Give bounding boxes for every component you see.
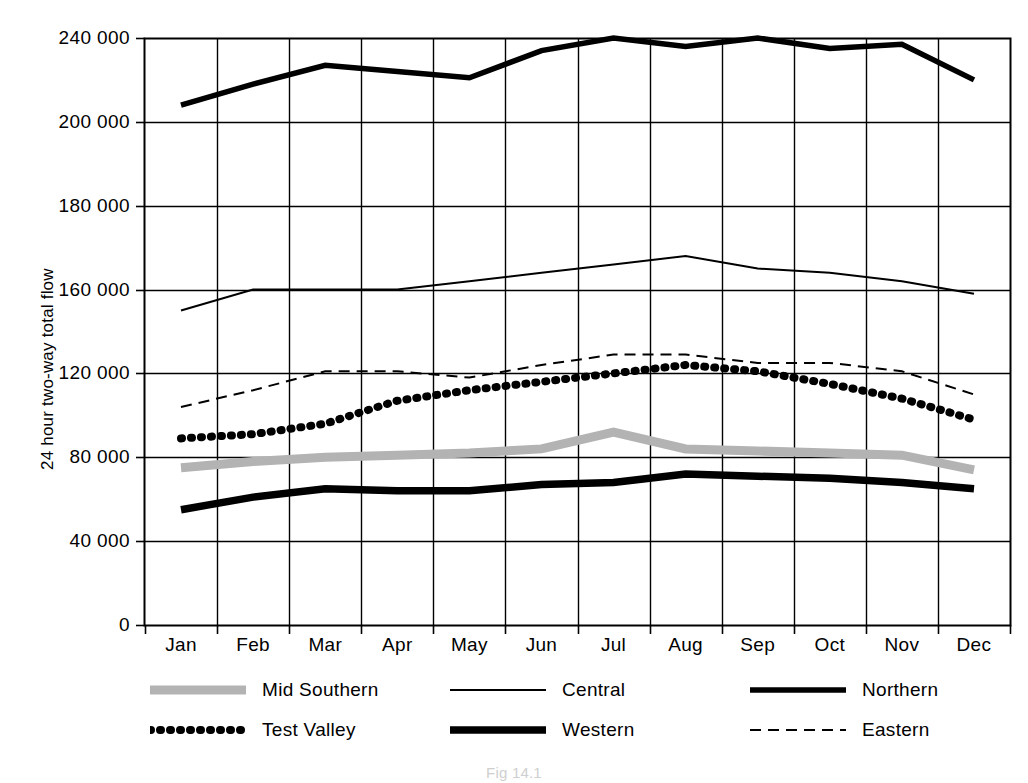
figure-chart: 24 hour two-way total flow 040 00080 000…: [0, 0, 1028, 783]
plot-frame: [145, 39, 1011, 626]
legend-item: Central: [450, 680, 625, 699]
legend-item: Test Valley: [150, 720, 356, 739]
series-line-western: [181, 474, 974, 510]
series-line-test-valley: [181, 365, 974, 438]
western-swatch: [450, 723, 546, 737]
series-line-mid-southern: [181, 432, 974, 470]
central-swatch: [450, 683, 546, 697]
legend-item: Western: [450, 720, 635, 739]
legend-label: Central: [562, 680, 625, 699]
legend-label: Western: [562, 720, 635, 739]
plot-area: [0, 0, 1028, 783]
chart-legend: Mid SouthernCentralNorthernTest ValleyWe…: [150, 680, 1010, 746]
legend-item: Mid Southern: [150, 680, 379, 699]
legend-item: Northern: [750, 680, 938, 699]
series-line-central: [181, 256, 974, 311]
figure-caption: Fig 14.1: [0, 764, 1028, 783]
grid-lines: [136, 38, 1011, 634]
legend-item: Eastern: [750, 720, 930, 739]
mid-southern-swatch: [150, 683, 246, 697]
legend-label: Northern: [862, 680, 938, 699]
series-lines: [181, 38, 974, 510]
legend-label: Eastern: [862, 720, 930, 739]
legend-label: Test Valley: [262, 720, 356, 739]
test-valley-swatch: [150, 723, 246, 737]
series-line-northern: [181, 38, 974, 105]
legend-label: Mid Southern: [262, 680, 379, 699]
northern-swatch: [750, 683, 846, 697]
eastern-swatch: [750, 723, 846, 737]
